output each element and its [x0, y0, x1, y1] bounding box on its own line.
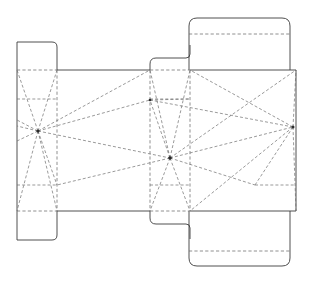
- top-dust-tab: [150, 45, 190, 70]
- dieline-drawing: [0, 0, 314, 282]
- top-closure-flap-outline: [189, 18, 290, 70]
- bottom-closure-flap: [189, 211, 290, 266]
- left-top-glue-tab-outline: [17, 42, 57, 70]
- bottom-dust-tab: [150, 211, 190, 239]
- panel-fills: [17, 70, 296, 211]
- bottom-dust-tab-outline: [150, 211, 190, 239]
- dieline-canvas: [0, 0, 314, 282]
- right-convergence-node: [292, 126, 295, 129]
- top-dust-tab-outline: [150, 45, 190, 70]
- left-bottom-glue-tab-outline: [17, 211, 57, 240]
- main-body-fill: [17, 70, 296, 211]
- left-convergence-node: [36, 129, 39, 132]
- center-convergence-node: [168, 156, 172, 160]
- left-bottom-glue-tab: [17, 211, 57, 240]
- upper-crease-node: [149, 99, 152, 102]
- left-top-glue-tab: [17, 42, 57, 70]
- top-closure-flap: [189, 18, 290, 70]
- bottom-closure-flap-outline: [189, 211, 290, 266]
